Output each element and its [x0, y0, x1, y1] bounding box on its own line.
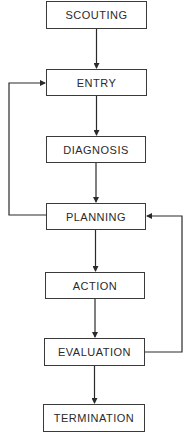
node-label: ACTION	[73, 280, 118, 292]
node-scouting: SCOUTING	[46, 1, 147, 29]
node-label: EVALUATION	[58, 346, 131, 358]
node-label: TERMINATION	[54, 412, 134, 424]
arrow-planning-entry-loop	[9, 83, 46, 215]
flowchart: SCOUTING ENTRY DIAGNOSIS PLANNING ACTION…	[0, 0, 187, 448]
node-entry: ENTRY	[46, 69, 147, 96]
node-label: ENTRY	[77, 77, 117, 89]
node-termination: TERMINATION	[43, 404, 145, 432]
node-evaluation: EVALUATION	[44, 338, 145, 366]
cropped-caption-fragment	[18, 441, 78, 448]
node-planning: PLANNING	[46, 203, 146, 230]
node-label: SCOUTING	[65, 9, 127, 21]
node-action: ACTION	[45, 272, 145, 299]
node-diagnosis: DIAGNOSIS	[46, 136, 146, 163]
node-label: PLANNING	[66, 211, 126, 223]
node-label: DIAGNOSIS	[63, 144, 129, 156]
arrow-evaluation-planning-loop	[145, 216, 182, 352]
